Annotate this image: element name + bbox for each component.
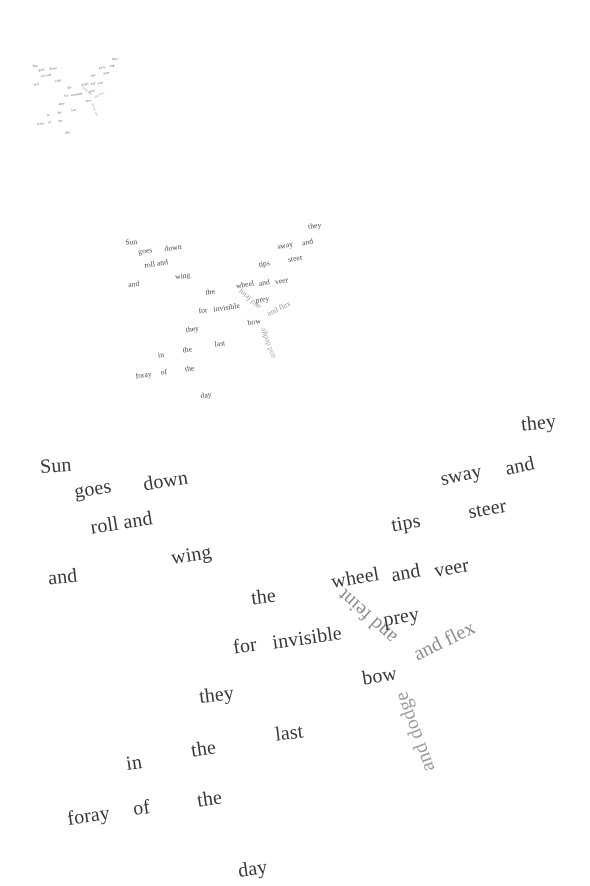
poem-word-the-2: the — [57, 111, 62, 115]
poem-word-the-1: the — [250, 585, 277, 608]
poem-word-and-sway: and — [503, 452, 536, 478]
poem-word-veer: veer — [97, 80, 103, 84]
poem-word-invisible: invisible — [71, 92, 83, 97]
poem-word-foray: foray — [37, 121, 44, 125]
poem-word-down: down — [49, 66, 57, 70]
poem-word-wing: wing — [174, 271, 190, 281]
poem-word-for: for — [232, 633, 258, 656]
poem-word-and-sway: and — [109, 64, 114, 68]
poem-word-for: for — [64, 94, 68, 98]
poem-word-and-wheel: and — [90, 81, 95, 85]
poem-word-the-1: the — [205, 287, 215, 296]
poem-word-bow: bow — [361, 662, 398, 687]
poem-word-of: of — [132, 796, 151, 818]
poem-word-tips: tips — [258, 259, 270, 268]
poem-word-and-left: and — [47, 565, 78, 588]
poem-word-day: day — [200, 390, 212, 399]
poem-word-invisible: invisible — [271, 622, 343, 652]
poem-word-they-top: they — [308, 221, 322, 230]
poem-word-invisible: invisible — [213, 301, 240, 312]
poem-word-and-left: and — [128, 280, 140, 289]
poem-word-the-3: the — [184, 364, 194, 373]
poem-word-and-sway: and — [301, 237, 313, 247]
poem-word-goes: goes — [73, 475, 113, 501]
poem-word-and-dodge: and dodge — [390, 689, 437, 774]
poem-word-sun: Sun — [39, 454, 72, 476]
poem-word-roll-and: roll and — [89, 507, 154, 537]
poem-word-last: last — [214, 339, 226, 348]
poem-word-veer: veer — [433, 554, 471, 580]
poem-word-last: last — [71, 108, 76, 112]
poem-word-roll-and: roll and — [144, 258, 169, 269]
poem-word-tips: tips — [90, 73, 95, 77]
poem-word-they-top: they — [520, 410, 557, 434]
poem-word-down: down — [142, 467, 189, 494]
poem-word-down: down — [164, 242, 182, 252]
poem-word-prey: prey — [89, 89, 95, 93]
poem-word-the-1: the — [67, 85, 71, 89]
poem-word-bow: bow — [86, 98, 92, 102]
poem-word-steer: steer — [103, 71, 110, 75]
poem-word-day: day — [237, 856, 269, 880]
poem-word-they-mid: they — [59, 102, 65, 106]
poem-word-foray: foray — [135, 370, 152, 380]
poem-word-steer: steer — [287, 253, 303, 263]
poem-word-roll-and: roll and — [41, 73, 52, 78]
poem-word-they-mid: they — [185, 324, 199, 333]
poem-word-sun: Sun — [32, 64, 37, 68]
poem-word-wheel: wheel — [330, 563, 381, 591]
poem-word-in: in — [47, 113, 50, 117]
poem-word-for: for — [198, 306, 208, 315]
poem-word-prey: prey — [255, 294, 270, 304]
poem-word-and-dodge: and dodge — [90, 103, 98, 117]
poem-word-day: day — [65, 130, 70, 134]
poem-word-the-3: the — [196, 786, 223, 809]
poem-word-wing: wing — [170, 541, 213, 567]
poem-word-tips: tips — [389, 510, 421, 535]
poem-word-the-3: the — [58, 119, 63, 123]
poem-word-last: last — [274, 720, 304, 743]
poem-canvas: Sungoesdownroll andwingandthewheelandvee… — [0, 0, 590, 886]
poem-word-and-dodge: and dodge — [258, 327, 276, 359]
poem-word-in: in — [125, 751, 143, 773]
poem-word-goes: goes — [138, 246, 153, 256]
poem-word-they-mid: they — [198, 682, 235, 706]
poem-word-of: of — [160, 367, 167, 375]
poem-word-sway: sway — [98, 65, 105, 70]
poem-word-of: of — [48, 120, 51, 124]
poem-word-sway: sway — [277, 240, 294, 251]
poem-word-the-2: the — [190, 736, 217, 759]
poem-word-goes: goes — [38, 67, 45, 71]
poem-word-sun: Sun — [125, 237, 137, 245]
copy-medium: Sungoesdownroll andwingandthewheelandvee… — [110, 65, 334, 402]
poem-word-bow: bow — [247, 317, 261, 327]
poem-word-wing: wing — [54, 78, 61, 82]
poem-word-the-2: the — [182, 345, 192, 354]
poem-word-and-wheel: and — [258, 278, 270, 287]
poem-word-prey: prey — [382, 603, 421, 629]
poem-word-and-wheel: and — [389, 560, 421, 585]
copy-small: Sungoesdownroll andwingandthewheelandvee… — [26, 0, 123, 135]
poem-word-steer: steer — [467, 495, 508, 521]
poem-word-wheel: wheel — [235, 279, 254, 290]
poem-word-veer: veer — [274, 276, 288, 286]
poem-word-and-left: and — [34, 82, 39, 86]
poem-word-they-top: they — [112, 57, 118, 61]
poem-word-foray: foray — [66, 802, 111, 828]
poem-word-in: in — [157, 350, 164, 358]
poem-word-sway: sway — [438, 460, 483, 488]
